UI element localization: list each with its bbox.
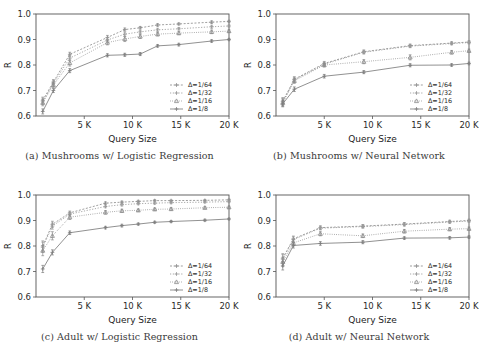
- y-tick-label: 1.0: [17, 9, 31, 19]
- x-tick-label: 5 K: [77, 301, 91, 311]
- y-axis-title: R: [243, 62, 253, 68]
- x-tick-label: 5 K: [317, 301, 331, 311]
- legend-label: Δ=1/16: [188, 278, 212, 286]
- chart-panel-a: 0.60.70.80.91.05 K10 K15 K20 KRQuery Siz…: [0, 0, 239, 180]
- y-axis-title: R: [243, 242, 253, 248]
- x-axis-title: Query Size: [108, 315, 157, 325]
- y-tick-label: 1.0: [257, 9, 271, 19]
- plot-area-a: 0.60.70.80.91.05 K10 K15 K20 KRQuery Siz…: [0, 0, 239, 156]
- legend-label: Δ=1/8: [188, 286, 208, 294]
- legend-label: Δ=1/32: [428, 270, 452, 278]
- x-tick-label: 20 K: [219, 120, 239, 130]
- x-axis-title: Query Size: [348, 134, 397, 144]
- x-tick-label: 20 K: [219, 301, 239, 311]
- x-tick-label: 10 K: [362, 120, 382, 130]
- x-tick-label: 5 K: [77, 120, 91, 130]
- legend-label: Δ=1/16: [428, 278, 452, 286]
- x-tick-label: 10 K: [123, 120, 143, 130]
- y-axis-title: R: [3, 242, 13, 248]
- x-tick-label: 15 K: [411, 120, 431, 130]
- y-tick-label: 0.9: [257, 35, 271, 45]
- chart-svg-c: 0.60.70.80.91.05 K10 K15 K20 KRQuery Siz…: [0, 181, 239, 337]
- panel-caption-c: (c) Adult w/ Logistic Regression: [0, 331, 239, 342]
- legend-label: Δ=1/16: [428, 97, 452, 105]
- legend-label: Δ=1/8: [428, 105, 448, 113]
- legend-label: Δ=1/32: [428, 89, 452, 97]
- x-tick-label: 15 K: [171, 120, 191, 130]
- legend: Δ=1/64Δ=1/32Δ=1/16Δ=1/8: [167, 78, 225, 113]
- y-tick-label: 1.0: [17, 190, 31, 200]
- y-tick-label: 0.9: [17, 215, 31, 225]
- chart-svg-a: 0.60.70.80.91.05 K10 K15 K20 KRQuery Siz…: [0, 0, 239, 156]
- y-tick-label: 0.6: [257, 111, 271, 121]
- legend-label: Δ=1/8: [428, 286, 448, 294]
- legend-label: Δ=1/64: [428, 262, 452, 270]
- legend: Δ=1/64Δ=1/32Δ=1/16Δ=1/8: [167, 259, 225, 294]
- x-tick-label: 15 K: [411, 301, 431, 311]
- legend-label: Δ=1/64: [188, 81, 212, 89]
- y-tick-label: 0.7: [257, 266, 271, 276]
- y-tick-label: 1.0: [257, 190, 271, 200]
- y-tick-label: 0.9: [257, 215, 271, 225]
- x-tick-label: 5 K: [317, 120, 331, 130]
- plot-area-b: 0.60.70.80.91.05 K10 K15 K20 KRQuery Siz…: [240, 0, 479, 156]
- chart-svg-b: 0.60.70.80.91.05 K10 K15 K20 KRQuery Siz…: [240, 0, 479, 156]
- series-2: [280, 219, 470, 264]
- y-tick-label: 0.7: [257, 86, 271, 96]
- legend: Δ=1/64Δ=1/32Δ=1/16Δ=1/8: [407, 259, 465, 294]
- legend-label: Δ=1/32: [188, 270, 212, 278]
- legend: Δ=1/64Δ=1/32Δ=1/16Δ=1/8: [407, 78, 465, 113]
- y-tick-label: 0.8: [257, 60, 271, 70]
- series-line: [282, 228, 468, 261]
- chart-panel-b: 0.60.70.80.91.05 K10 K15 K20 KRQuery Siz…: [240, 0, 479, 180]
- legend-label: Δ=1/64: [428, 81, 452, 89]
- series-line: [282, 221, 468, 259]
- x-tick-label: 15 K: [171, 301, 191, 311]
- chart-panel-c: 0.60.70.80.91.05 K10 K15 K20 KRQuery Siz…: [0, 181, 239, 361]
- y-tick-label: 0.6: [17, 111, 31, 121]
- plot-area-d: 0.60.70.80.91.05 K10 K15 K20 KRQuery Siz…: [240, 181, 479, 337]
- legend-label: Δ=1/8: [188, 105, 208, 113]
- panel-caption-d: (d) Adult w/ Neural Network: [240, 331, 479, 342]
- panel-caption-a: (a) Mushrooms w/ Logistic Regression: [0, 150, 239, 161]
- y-tick-label: 0.7: [17, 266, 31, 276]
- chart-svg-d: 0.60.70.80.91.05 K10 K15 K20 KRQuery Siz…: [240, 181, 479, 337]
- x-tick-label: 20 K: [459, 301, 479, 311]
- y-tick-label: 0.6: [257, 292, 271, 302]
- figure-grid: 0.60.70.80.91.05 K10 K15 K20 KRQuery Siz…: [0, 0, 479, 361]
- chart-panel-d: 0.60.70.80.91.05 K10 K15 K20 KRQuery Siz…: [240, 181, 479, 361]
- series-line: [43, 199, 229, 245]
- panel-caption-b: (b) Mushrooms w/ Neural Network: [240, 150, 479, 161]
- y-tick-label: 0.6: [17, 292, 31, 302]
- y-axis-title: R: [3, 62, 13, 68]
- x-tick-label: 10 K: [123, 301, 143, 311]
- x-tick-label: 20 K: [459, 120, 479, 130]
- y-tick-label: 0.8: [17, 241, 31, 251]
- legend-label: Δ=1/16: [188, 97, 212, 105]
- y-tick-label: 0.8: [257, 241, 271, 251]
- plot-area-c: 0.60.70.80.91.05 K10 K15 K20 KRQuery Siz…: [0, 181, 239, 337]
- legend-label: Δ=1/32: [188, 89, 212, 97]
- legend-label: Δ=1/64: [188, 262, 212, 270]
- y-tick-label: 0.7: [17, 86, 31, 96]
- x-axis-title: Query Size: [348, 315, 397, 325]
- y-tick-label: 0.9: [17, 35, 31, 45]
- y-tick-label: 0.8: [17, 60, 31, 70]
- x-axis-title: Query Size: [108, 134, 157, 144]
- x-tick-label: 10 K: [362, 301, 382, 311]
